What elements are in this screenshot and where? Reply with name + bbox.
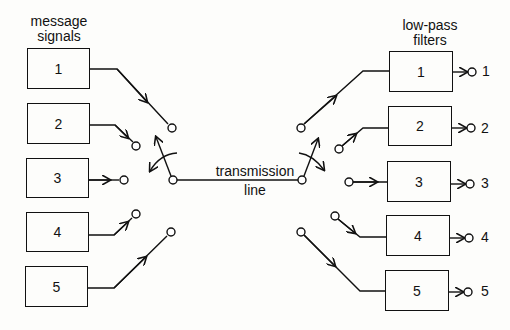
left-switch-1 [90, 69, 176, 132]
right-commutator [298, 139, 324, 184]
right-switch-2 [335, 128, 388, 153]
wiring [0, 0, 510, 330]
left-switch-4 [89, 210, 140, 235]
right-switch-3 [345, 178, 387, 186]
right-switch-1 [297, 71, 389, 132]
outputs [449, 68, 476, 296]
left-commutator [150, 137, 177, 184]
left-switch-3 [89, 176, 128, 184]
left-switch-2 [90, 125, 140, 150]
left-switch-5 [88, 228, 175, 288]
right-switch-4 [331, 212, 386, 237]
tdm-diagram: message signals low-pass filters 1 2 3 4… [0, 0, 510, 330]
